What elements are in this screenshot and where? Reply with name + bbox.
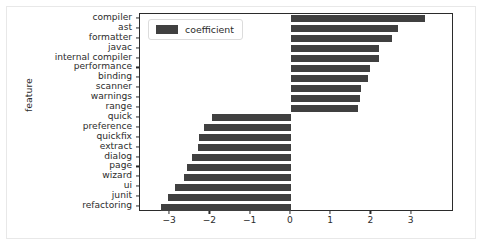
y-tick-label-compiler: compiler [92, 13, 132, 22]
bar-ast [291, 25, 398, 32]
y-tick-label-preference: preference [83, 122, 132, 131]
x-axis-ticks: −3−2−10123 [139, 211, 453, 237]
bar-quickfix [199, 134, 291, 141]
x-tick-label-0: −3 [162, 216, 175, 225]
bar-preference [204, 124, 291, 131]
bar-scanner [291, 85, 361, 92]
legend: coefficient [148, 19, 243, 40]
bar-refactoring [161, 204, 291, 211]
y-tick-label-warnings: warnings [91, 93, 132, 102]
plot-area [139, 13, 453, 211]
y-axis-ticks: compilerastformatterjavacinternal compil… [0, 13, 139, 211]
x-tick-label-3: 0 [287, 216, 293, 225]
bar-extract [198, 144, 291, 151]
x-tick-label-2: −1 [243, 216, 256, 225]
bar-page [187, 164, 291, 171]
x-tick-mark [249, 211, 250, 214]
y-tick-label-ast: ast [118, 23, 132, 32]
bar-dialog [192, 154, 291, 161]
bar-ui [175, 184, 291, 191]
chart-figure: feature compilerastformatterjavacinterna… [0, 0, 482, 245]
y-tick-label-formatter: formatter [89, 33, 132, 42]
bar-warnings [291, 95, 360, 102]
x-tick-label-4: 1 [327, 216, 333, 225]
y-tick-label-javac: javac [108, 43, 132, 52]
y-tick-label-page: page [109, 162, 132, 171]
x-tick-mark [209, 211, 210, 214]
y-tick-label-binding: binding [98, 73, 132, 82]
bar-internal-compiler [291, 55, 379, 62]
bar-performance [291, 65, 370, 72]
y-tick-label-wizard: wizard [102, 172, 132, 181]
x-tick-label-5: 2 [368, 216, 374, 225]
legend-label-coefficient: coefficient [185, 25, 234, 34]
bars-container [140, 14, 452, 210]
bar-wizard [184, 174, 291, 181]
legend-swatch-coefficient [156, 25, 178, 34]
y-tick-label-dialog: dialog [104, 152, 132, 161]
y-tick-label-quick: quick [108, 112, 132, 121]
y-tick-label-range: range [106, 103, 132, 112]
bar-quick [212, 114, 291, 121]
bar-junit [168, 194, 291, 201]
y-tick-label-extract: extract [100, 142, 132, 151]
x-tick-mark [169, 211, 170, 214]
x-tick-label-1: −2 [203, 216, 216, 225]
y-tick-label-quickfix: quickfix [97, 132, 132, 141]
bar-javac [291, 45, 379, 52]
x-tick-mark [330, 211, 331, 214]
y-tick-label-scanner: scanner [96, 83, 132, 92]
x-tick-mark [410, 211, 411, 214]
y-tick-label-ui: ui [124, 182, 132, 191]
y-tick-label-performance: performance [74, 63, 132, 72]
y-tick-label-junit: junit [112, 192, 132, 201]
bar-range [291, 105, 358, 112]
y-tick-label-internal-compiler: internal compiler [55, 53, 132, 62]
x-tick-label-6: 3 [408, 216, 414, 225]
bar-formatter [291, 35, 392, 42]
x-tick-mark [289, 211, 290, 214]
x-tick-mark [370, 211, 371, 214]
bar-compiler [291, 15, 425, 22]
y-tick-label-refactoring: refactoring [82, 202, 132, 211]
bar-binding [291, 75, 368, 82]
